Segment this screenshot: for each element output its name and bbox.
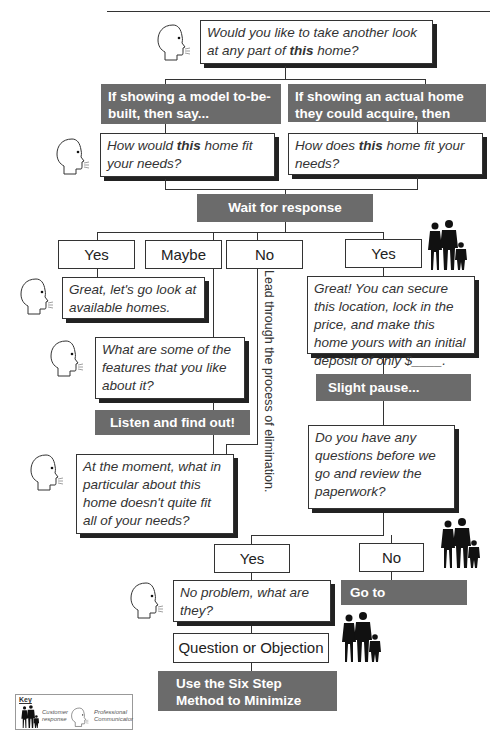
questions-reply-box: Do you have any questions before we go a… (308, 425, 455, 509)
listen-label: Listen and find out! (95, 410, 250, 435)
connector (97, 232, 98, 240)
professional-communicator-icon (48, 338, 86, 378)
connector (285, 222, 286, 232)
customer-response-icon (339, 612, 383, 664)
professional-communicator-icon (128, 580, 166, 620)
connector (165, 179, 166, 189)
legend-title: Key (19, 696, 32, 703)
final-no: No (359, 543, 424, 572)
connector (97, 232, 383, 233)
legend-professional-label: Professional Communicator (94, 709, 132, 723)
connector (226, 444, 258, 445)
no-problem-box: No problem, what are they? (173, 580, 331, 622)
connector (251, 535, 384, 536)
connector (251, 663, 252, 671)
connector (257, 232, 258, 240)
top-prompt-box: Would you like to take another look at a… (200, 20, 433, 64)
connector (417, 177, 418, 189)
connector (213, 269, 214, 339)
go-to-paperwork-label: Go to paperwork. (341, 580, 467, 605)
connector (165, 189, 418, 190)
connector (383, 401, 384, 425)
connector (165, 79, 425, 80)
professional-communicator-icon (54, 136, 92, 176)
connector (383, 358, 384, 374)
customer-response-icon (438, 518, 482, 570)
response-no: No (226, 240, 303, 269)
connector (213, 435, 214, 455)
branch-actual-label: If showing an actual home they could acq… (288, 84, 486, 122)
customer-response-icon (20, 705, 40, 729)
top-rule (107, 11, 490, 12)
connector (285, 66, 286, 79)
connector (383, 513, 384, 535)
legend-key: Key Customer response Professional Commu… (15, 694, 133, 730)
customer-response-icon (425, 220, 469, 272)
response-yes-right: Yes (345, 239, 422, 268)
final-yes: Yes (214, 544, 290, 573)
maybe-reply-box: What are some of the features that you l… (95, 337, 245, 399)
connector (383, 268, 384, 276)
elimination-note: Lead through the process of elimination. (262, 270, 276, 492)
connector (97, 269, 98, 277)
branch-model-label: If showing a model to-be-built, then say… (101, 84, 281, 124)
wait-for-response-label: Wait for response (197, 194, 373, 222)
question-model-box: How would this home fit your needs? (100, 133, 275, 177)
yes-left-reply-box: Great, let's go look at available homes. (62, 277, 205, 319)
connector (213, 402, 214, 410)
connector (213, 232, 214, 240)
yes-right-reply-box: Great! You can secure this location, loc… (307, 276, 475, 354)
moment-reply-box: At the moment, what in particular about … (76, 454, 234, 534)
six-step-method-label: Use the Six Step Method to Minimize Obje… (158, 671, 337, 711)
question-or-objection: Question or Objection (173, 633, 329, 663)
professional-communicator-icon (18, 276, 56, 316)
response-maybe: Maybe (145, 240, 222, 269)
response-yes-left: Yes (58, 240, 135, 269)
slight-pause-label: Slight pause... (316, 374, 471, 401)
professional-communicator-icon (28, 452, 66, 492)
question-actual-box: How does this home fit your needs? (288, 133, 483, 175)
professional-communicator-icon (70, 706, 90, 728)
legend-customer-label: Customer response (42, 709, 64, 723)
professional-communicator-icon (155, 22, 193, 62)
connector (257, 269, 258, 444)
